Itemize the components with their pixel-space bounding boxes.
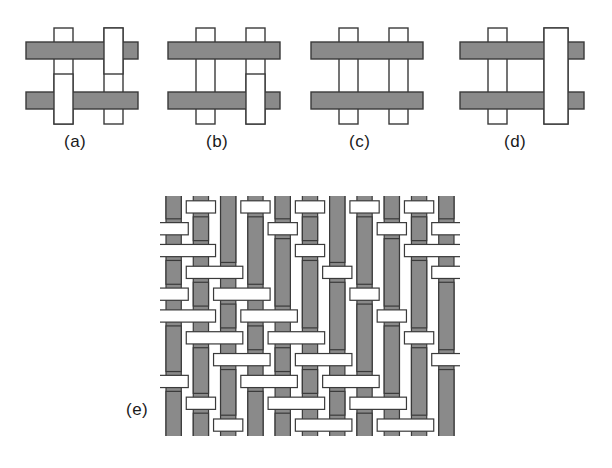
panel-d-label: (d) xyxy=(504,132,526,152)
weave-diagram-a xyxy=(18,22,146,130)
panel-a-label: (a) xyxy=(64,132,86,152)
panel-c: (c) xyxy=(303,22,431,130)
figure-root: (a) (b) (c) xyxy=(0,0,612,468)
panel-b-label: (b) xyxy=(206,132,228,152)
panel-e xyxy=(160,196,460,436)
weave-diagram-e xyxy=(160,196,460,436)
weave-diagram-c xyxy=(303,22,431,130)
panel-c-label: (c) xyxy=(349,132,370,152)
panel-d: (d) xyxy=(452,22,592,130)
weave-diagram-d xyxy=(452,22,592,130)
weave-diagram-b xyxy=(160,22,288,130)
panel-a: (a) xyxy=(18,22,146,130)
panel-e-label: (e) xyxy=(126,400,148,420)
panel-b: (b) xyxy=(160,22,288,130)
